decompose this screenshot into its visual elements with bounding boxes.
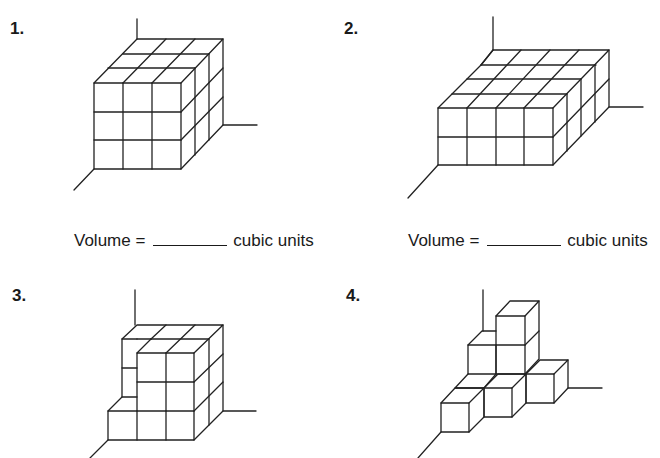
figure-3-cube-prism-notched	[90, 290, 256, 458]
figure-2-cube-prism	[408, 17, 643, 198]
figure-4-staircase-cubes	[418, 290, 602, 458]
figure-1-cube-prism	[74, 19, 257, 190]
figures-canvas	[0, 0, 660, 458]
